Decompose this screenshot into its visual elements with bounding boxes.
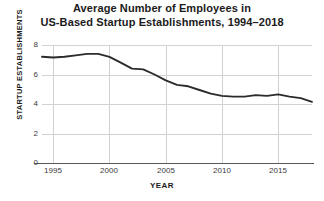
x-axis-title: YEAR <box>0 181 324 190</box>
x-tick-label-2000: 2000 <box>89 167 129 175</box>
chart-title-line-2: US-Based Startup Establishments, 1994–20… <box>0 16 324 30</box>
chart-title-line-1: Average Number of Employees in <box>0 2 324 16</box>
x-tick-label-2010: 2010 <box>202 167 242 175</box>
x-axis-line <box>34 163 314 164</box>
chart-container: Average Number of Employees in US-Based … <box>0 0 324 201</box>
x-tick-label-1995: 1995 <box>33 167 73 175</box>
y-tick-label-0: 0 <box>16 159 38 167</box>
plot-area <box>42 45 312 163</box>
x-tick-label-2005: 2005 <box>146 167 186 175</box>
y-axis-title: STARTUP ESTABLISHMENTS <box>15 5 24 125</box>
data-series-line <box>42 45 312 163</box>
y-tick-label-2: 2 <box>16 130 38 138</box>
chart-title: Average Number of Employees in US-Based … <box>0 2 324 29</box>
x-tick-label-2015: 2015 <box>258 167 298 175</box>
